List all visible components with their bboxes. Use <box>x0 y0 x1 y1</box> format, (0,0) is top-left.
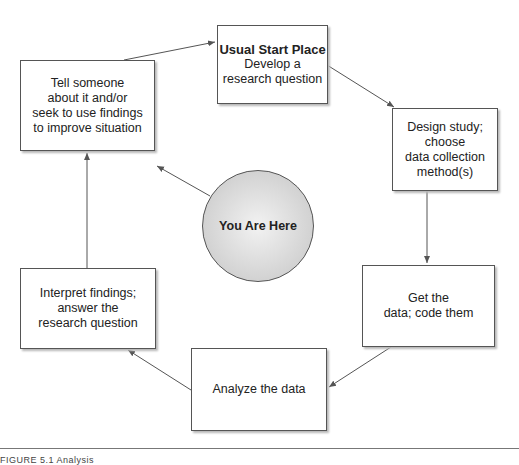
arrow-analyze-to-interpret <box>128 350 191 390</box>
you-are-here-circle: You Are Here <box>202 170 314 282</box>
step-interpret-line: answer the <box>57 301 118 316</box>
arrow-start-to-design <box>327 65 394 107</box>
step-analyze-box: Analyze the data <box>191 348 327 431</box>
arrow-getdata-to-analyze <box>329 347 391 387</box>
step-tell-box: Tell someone about it and/or seek to use… <box>20 60 155 151</box>
arrow-tell-to-start <box>124 42 215 60</box>
step-start-box: Usual Start Place Develop a research que… <box>217 25 328 104</box>
step-tell-line: seek to use findings <box>32 106 143 121</box>
step-get-data-box: Get the data; code them <box>362 265 495 347</box>
step-start-line: Develop a <box>244 57 300 72</box>
step-interpret-line: Interpret findings; <box>40 286 137 301</box>
step-start-title: Usual Start Place <box>219 42 325 57</box>
step-tell-line: Tell someone <box>51 76 125 91</box>
step-get-data-line: data; code them <box>384 306 474 321</box>
arrow-center-to-tell <box>157 166 210 196</box>
step-design-line: method(s) <box>417 165 473 180</box>
caption-divider <box>0 448 519 449</box>
step-design-box: Design study; choose data collection met… <box>392 108 498 191</box>
step-interpret-line: research question <box>38 316 137 331</box>
step-tell-line: about it and/or <box>48 91 128 106</box>
you-are-here-label: You Are Here <box>219 219 297 233</box>
figure-caption: FIGURE 5.1 Analysis <box>0 455 94 465</box>
step-interpret-box: Interpret findings; answer the research … <box>20 268 156 349</box>
step-design-line: data collection <box>405 150 485 165</box>
step-get-data-line: Get the <box>408 291 449 306</box>
step-analyze-line: Analyze the data <box>212 382 305 397</box>
step-start-line: research question <box>223 72 322 87</box>
step-design-line: Design study; choose <box>393 120 497 150</box>
step-tell-line: to improve situation <box>33 121 141 136</box>
